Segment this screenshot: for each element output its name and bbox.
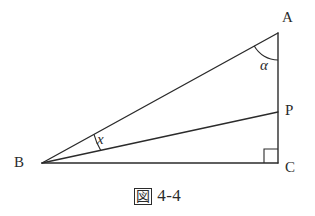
vertex-label-p: P: [285, 103, 293, 118]
geometry-diagram: [0, 0, 315, 216]
figure-container: A P C B α x 図4-4: [0, 0, 315, 216]
figure-caption-kanji: 図: [134, 188, 153, 205]
figure-caption: 図4-4: [0, 186, 315, 206]
angle-label-x: x: [97, 132, 104, 147]
segment-BA: [42, 33, 278, 163]
vertex-label-c: C: [285, 160, 295, 175]
vertex-label-a: A: [282, 10, 293, 25]
right-angle-marker-C: [264, 149, 278, 163]
vertex-label-b: B: [14, 155, 24, 170]
angle-label-alpha: α: [260, 58, 268, 73]
figure-caption-number: 4-4: [157, 187, 181, 206]
segment-BP: [42, 112, 278, 163]
